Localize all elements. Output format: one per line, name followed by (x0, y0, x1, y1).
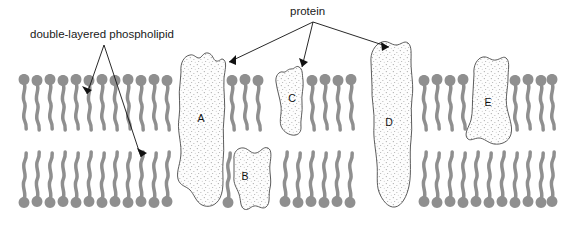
protein-B: B (234, 148, 271, 210)
protein-D: D (371, 42, 413, 208)
lower-leaflet (19, 152, 558, 208)
annotation-phospholipid: double-layered phospholipid (30, 28, 174, 40)
protein-C: C (276, 66, 303, 135)
membrane-diagram: A B C D E (0, 0, 574, 226)
protein-label-A: A (197, 112, 204, 124)
protein-label-E: E (484, 96, 491, 108)
protein-label-C: C (288, 92, 296, 104)
diagram-canvas: A B C D E (0, 0, 574, 226)
protein-label-B: B (241, 170, 248, 182)
annotation-protein: protein (290, 5, 325, 17)
protein-label-D: D (385, 116, 393, 128)
protein-leader-lines (229, 22, 389, 67)
protein-A: A (178, 53, 226, 206)
protein-E: E (466, 57, 511, 144)
